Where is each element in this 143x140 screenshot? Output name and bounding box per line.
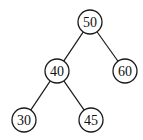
tree-edge-40-30: [31, 81, 51, 110]
binary-tree-diagram: 5040603045: [0, 0, 143, 140]
node-label: 40: [50, 64, 64, 79]
tree-edge-40-45: [64, 81, 84, 110]
tree-node-30: 30: [12, 108, 36, 132]
tree-node-50: 50: [78, 10, 102, 34]
node-label: 50: [83, 15, 97, 30]
tree-node-60: 60: [113, 59, 137, 83]
tree-edges: [31, 32, 118, 110]
node-label: 60: [118, 64, 132, 79]
node-label: 30: [17, 113, 31, 128]
tree-nodes: 5040603045: [12, 10, 137, 132]
tree-node-40: 40: [45, 59, 69, 83]
tree-node-45: 45: [79, 108, 103, 132]
node-label: 45: [84, 113, 98, 128]
tree-edge-50-60: [97, 32, 118, 61]
tree-edge-50-40: [64, 32, 84, 61]
